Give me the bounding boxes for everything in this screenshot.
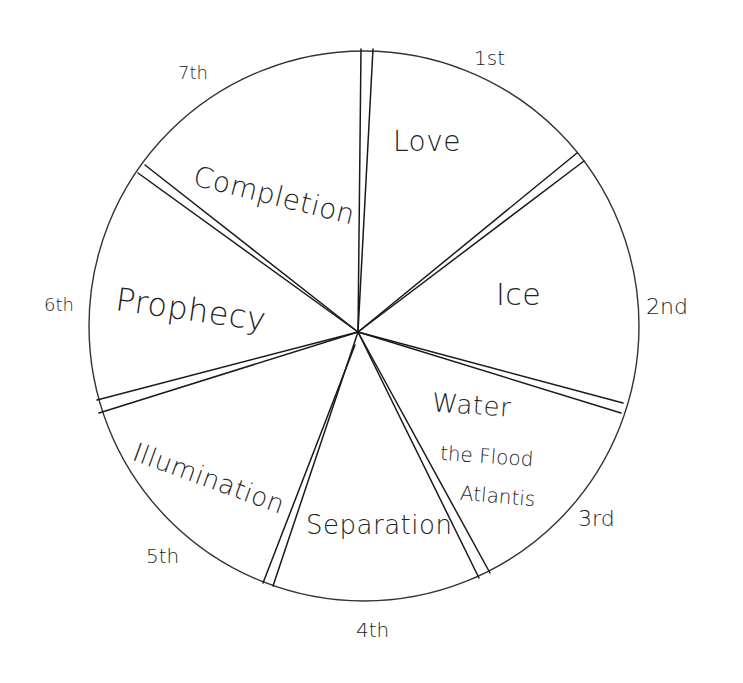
order-label-5th: 5th [146, 546, 179, 566]
order-label-2nd: 2nd [646, 296, 688, 318]
sector-label-water: Water [431, 389, 512, 420]
sector-sublabel-the-flood: the Flood [439, 443, 534, 469]
order-label-1st: 1st [474, 48, 505, 68]
divider-7th-1st [358, 49, 373, 332]
order-label-3rd: 3rd [578, 508, 615, 530]
order-label-4th: 4th [356, 620, 389, 640]
sector-sublabel-atlantis: Atlantis [459, 483, 536, 510]
sector-label-love: Love [393, 128, 461, 156]
divider-5th-6th [97, 332, 358, 413]
sector-label-ice: Ice [496, 280, 541, 310]
order-label-7th: 7th [178, 64, 208, 82]
divider-4th-5th [263, 332, 358, 586]
sector-label-separation: Separation [306, 512, 452, 538]
order-label-6th: 6th [44, 296, 74, 314]
pie-diagram [0, 0, 743, 683]
divider-1st-2nd [358, 153, 584, 332]
